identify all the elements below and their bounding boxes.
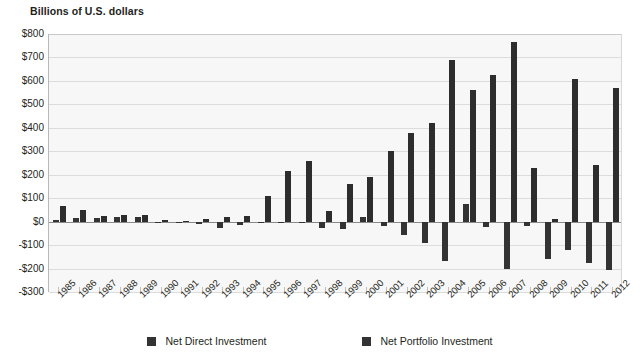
y-axis-tick-label: $300 (0, 145, 44, 156)
legend-swatch-icon (147, 337, 156, 346)
y-axis-tick-label: $200 (0, 169, 44, 180)
bar-direct-2000 (360, 217, 366, 222)
y-axis-tick-label: $500 (0, 98, 44, 109)
bar-direct-2010 (565, 222, 571, 250)
y-axis-tick-label: -$200 (0, 263, 44, 274)
y-axis-tick-label: $100 (0, 192, 44, 203)
bar-portfolio-1991 (183, 221, 189, 222)
bar-direct-1996 (278, 222, 284, 223)
bar-portfolio-1987 (101, 216, 107, 222)
bar-direct-1993 (217, 222, 223, 228)
chart-legend: Net Direct InvestmentNet Portfolio Inves… (0, 330, 640, 352)
bar-portfolio-1998 (326, 211, 332, 222)
x-axis-labels: 1985198619871988198919901991199219931994… (48, 292, 622, 332)
chart-container: Billions of U.S. dollars $800$700$600$50… (0, 0, 640, 352)
bar-portfolio-1993 (224, 217, 230, 222)
bar-portfolio-2011 (593, 165, 599, 221)
gridline (49, 81, 621, 82)
y-axis-tick-label: $0 (0, 216, 44, 227)
bar-direct-2011 (586, 222, 592, 263)
bar-direct-2001 (381, 222, 387, 227)
y-axis-tick-label: $700 (0, 51, 44, 62)
bar-portfolio-2012 (613, 88, 619, 222)
gridline (49, 269, 621, 270)
bar-portfolio-2009 (552, 219, 558, 221)
bar-portfolio-2005 (470, 90, 476, 221)
axis-title: Billions of U.S. dollars (30, 5, 144, 17)
bar-direct-1988 (114, 217, 120, 222)
bar-portfolio-1985 (60, 206, 66, 222)
bar-direct-1998 (319, 222, 325, 228)
legend-label: Net Direct Investment (165, 335, 266, 347)
bar-direct-1985 (53, 220, 59, 221)
legend-swatch-icon (362, 337, 371, 346)
y-axis-tick-label: $400 (0, 122, 44, 133)
bar-portfolio-1986 (80, 210, 86, 221)
bar-portfolio-1992 (203, 219, 209, 222)
bar-portfolio-2006 (490, 75, 496, 222)
bar-direct-1987 (94, 218, 100, 222)
bar-portfolio-2010 (572, 79, 578, 222)
y-axis-tick-label: $800 (0, 28, 44, 39)
bar-portfolio-1988 (121, 215, 127, 222)
bar-direct-1995 (258, 222, 264, 223)
y-axis-tick-label: -$300 (0, 286, 44, 297)
bar-direct-2012 (606, 222, 612, 270)
bar-direct-1999 (340, 222, 346, 229)
gridline (49, 151, 621, 152)
bar-direct-1992 (196, 222, 202, 225)
bar-direct-1994 (237, 222, 243, 226)
y-axis-labels: $800$700$600$500$400$300$200$100$0-$100-… (0, 34, 44, 292)
y-axis-tick-label: $600 (0, 75, 44, 86)
bar-portfolio-1996 (285, 171, 291, 221)
legend-label: Net Portfolio Investment (380, 335, 492, 347)
gridline (49, 104, 621, 105)
bar-portfolio-2007 (511, 42, 517, 221)
plot-area (48, 34, 622, 292)
bar-direct-1986 (73, 218, 79, 222)
zero-line (49, 222, 621, 223)
bar-direct-2007 (504, 222, 510, 269)
bar-direct-2004 (442, 222, 448, 262)
bar-direct-2005 (463, 204, 469, 222)
legend-item-portfolio[interactable]: Net Portfolio Investment (362, 335, 492, 347)
gridline (49, 245, 621, 246)
gridline (49, 128, 621, 129)
gridline (49, 57, 621, 58)
bar-direct-2006 (483, 222, 489, 228)
bar-portfolio-1999 (347, 184, 353, 222)
bar-portfolio-1995 (265, 196, 271, 222)
bar-portfolio-2003 (429, 123, 435, 222)
bar-portfolio-2002 (408, 133, 414, 222)
bar-portfolio-1997 (306, 161, 312, 222)
y-axis-tick-label: -$100 (0, 239, 44, 250)
gridline (49, 34, 621, 35)
bar-direct-2008 (524, 222, 530, 227)
bar-portfolio-2008 (531, 168, 537, 222)
bar-portfolio-2001 (388, 151, 394, 221)
bar-direct-2003 (422, 222, 428, 243)
bar-portfolio-2000 (367, 177, 373, 222)
legend-item-direct[interactable]: Net Direct Investment (147, 335, 266, 347)
bar-portfolio-1990 (162, 220, 168, 222)
bar-direct-2002 (401, 222, 407, 235)
bar-portfolio-2004 (449, 60, 455, 222)
bar-direct-1991 (176, 222, 182, 223)
bar-direct-1990 (155, 222, 161, 223)
bar-portfolio-1989 (142, 215, 148, 222)
bar-direct-1997 (299, 222, 305, 223)
bar-portfolio-1994 (244, 216, 250, 221)
bar-direct-2009 (545, 222, 551, 260)
bar-direct-1989 (135, 217, 141, 222)
